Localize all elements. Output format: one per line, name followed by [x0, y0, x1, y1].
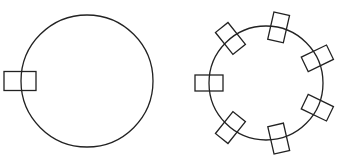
diagram-canvas	[0, 0, 337, 161]
circle-outline	[21, 15, 153, 147]
circle-outline	[209, 26, 323, 140]
edge-rectangle	[4, 72, 36, 91]
left-circle-diagram	[4, 15, 153, 147]
right-circle-diagram	[195, 12, 333, 154]
